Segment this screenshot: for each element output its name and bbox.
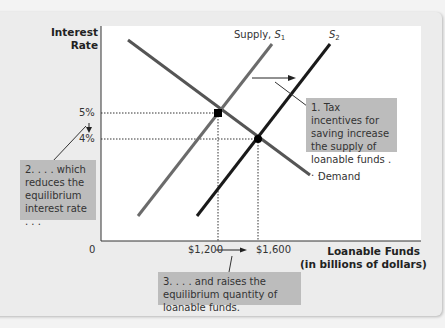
supply2-label: S2 [329, 29, 340, 44]
y-axis-title-line1: Interest [40, 26, 98, 39]
x-axis-title-line1: Loanable Funds [300, 245, 420, 258]
callout-3: 3. . . . and raises the equilibrium quan… [158, 272, 301, 305]
leader-3 [229, 256, 232, 272]
equilibrium-point-2 [254, 135, 262, 143]
x-tick-1200: $1,200 [188, 244, 223, 256]
y-tick-5pct: 5% [79, 107, 95, 119]
supply1-label-sub: 1 [281, 34, 285, 42]
equilibrium-point-1 [214, 109, 222, 117]
y-axis-title: Interest Rate [40, 26, 98, 52]
leader-1 [275, 82, 307, 106]
supply1-curve [138, 44, 272, 216]
demand-label: Demand [318, 171, 360, 183]
y-axis-title-line2: Rate [40, 39, 98, 52]
x-axis-title-line2: (in billions of dollars) [300, 258, 420, 271]
callout-1: 1. Tax incentives for saving increase th… [306, 98, 397, 152]
origin-label: 0 [89, 244, 95, 256]
supply1-label-prefix: Supply, [234, 29, 274, 40]
callout-2: 2. . . . which reduces the equilibrium i… [20, 160, 96, 220]
x-tick-1600: $1,600 [256, 244, 291, 256]
x-axis-title: Loanable Funds (in billions of dollars) [300, 245, 420, 271]
supply2-label-sub: 2 [335, 34, 339, 42]
supply1-label: Supply, S1 [234, 29, 285, 44]
y-tick-4pct: 4% [79, 133, 95, 145]
